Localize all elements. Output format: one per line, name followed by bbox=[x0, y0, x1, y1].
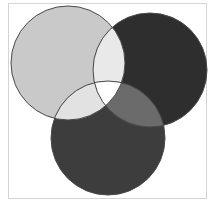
venn-diagram bbox=[0, 0, 211, 202]
